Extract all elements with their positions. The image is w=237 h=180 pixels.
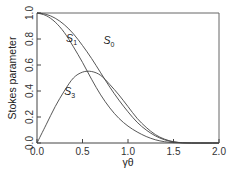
x-tick-label: 0.5 xyxy=(76,146,90,157)
y-tick-label: 0.0 xyxy=(24,136,35,150)
y-tick-label: 0.4 xyxy=(24,84,35,98)
y-tick-label: 0.8 xyxy=(24,32,35,46)
curve-s3 xyxy=(37,71,219,143)
y-ticks: 0.00.20.40.60.81.0 xyxy=(24,6,41,150)
y-tick-label: 0.6 xyxy=(24,58,35,72)
curves xyxy=(37,13,219,143)
curve-labels: S1S0S3 xyxy=(64,32,114,99)
curve-label-s0: S0 xyxy=(103,34,114,48)
x-ticks: 0.00.51.01.52.0 xyxy=(30,139,226,157)
x-tick-label: 2.0 xyxy=(212,146,226,157)
curve-s1 xyxy=(37,13,219,143)
stokes-parameter-chart: 0.00.51.01.52.0 0.00.20.40.60.81.0 S1S0S… xyxy=(0,0,237,180)
curve-label-s1: S1 xyxy=(66,32,77,46)
y-tick-label: 1.0 xyxy=(24,6,35,20)
curve-label-s3: S3 xyxy=(64,85,75,99)
y-axis-label: Stokes parameter xyxy=(6,36,18,119)
x-axis-label: γθ xyxy=(122,156,133,168)
y-tick-label: 0.2 xyxy=(24,110,35,124)
x-tick-label: 1.5 xyxy=(167,146,181,157)
